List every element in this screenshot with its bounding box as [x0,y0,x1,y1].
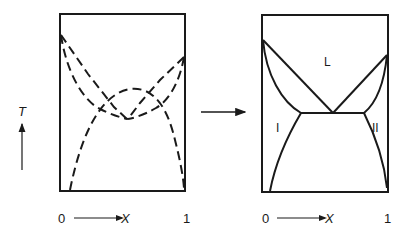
solvus-left [270,113,301,191]
left-x-min-label: 0 [58,212,65,225]
right-x-max-label: 1 [384,212,391,225]
liquidus-left [263,40,333,113]
right-x-axis-label: X [325,212,334,225]
dashed-solidus-left [61,35,128,119]
left-panel-frame [60,14,185,191]
dashed-liquidus-left [61,35,128,120]
region-liquid-label: L [324,56,331,68]
solidus-left [263,40,301,113]
dashed-dome [70,89,184,190]
region-solid-1-label: I [276,122,279,134]
temperature-label: T [18,105,26,118]
right-panel [262,15,388,192]
diagram-canvas [0,0,405,239]
left-x-max-label: 1 [183,212,190,225]
left-x-axis-label: X [121,212,130,225]
liquidus-right [333,55,387,113]
left-panel [60,14,185,191]
solidus-right [364,55,387,113]
region-solid-2-label: II [372,122,379,134]
right-x-min-label: 0 [262,212,269,225]
